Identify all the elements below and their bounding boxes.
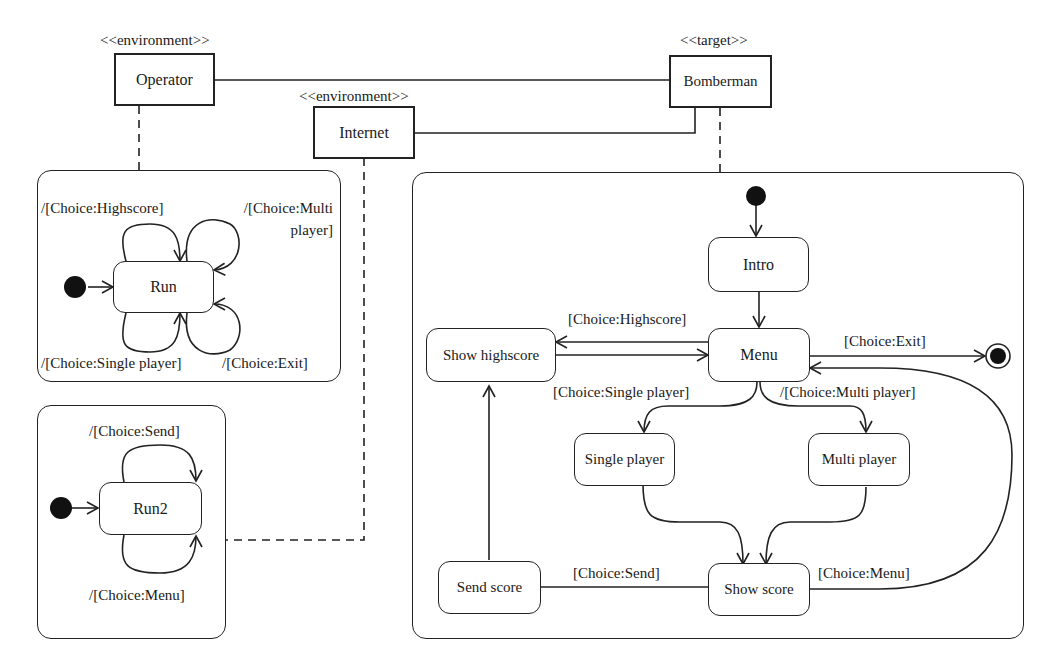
transition-label-menu-bm: [Choice:Menu] [818,565,910,582]
bomberman-label: Bomberman [683,73,757,90]
transition-label-exit-bm: [Choice:Exit] [844,333,926,350]
transition-label-multi-1: /[Choice:Multi [220,200,333,217]
transition-label-send: /[Choice:Send] [89,423,180,440]
state-send-score-label: Send score [457,579,522,596]
operator-stereotype: <<environment>> [100,32,210,49]
state-menu-label: Menu [740,346,777,364]
transition-label-single: /[Choice:Single player] [41,355,181,372]
operator-label: Operator [136,71,193,89]
state-run2[interactable]: Run2 [99,482,202,535]
internet-label: Internet [339,124,389,142]
state-intro-label: Intro [743,256,774,274]
transition-label-exit: /[Choice:Exit] [222,355,308,372]
transition-label-single-bm: [Choice:Single player] [553,384,689,401]
bomberman-component[interactable]: Bomberman [669,55,772,108]
internet-stereotype: <<environment>> [299,88,409,105]
state-send-score[interactable]: Send score [438,561,541,614]
state-run2-label: Run2 [133,500,168,518]
state-show-highscore[interactable]: Show highscore [426,328,556,382]
transition-label-send-bm: [Choice:Send] [573,565,660,582]
operator-component[interactable]: Operator [114,53,215,106]
state-single-player-label: Single player [585,451,665,468]
state-show-score-label: Show score [724,581,794,598]
transition-label-multi-2: player] [220,222,333,239]
bomberman-stereotype: <<target>> [680,32,748,49]
state-show-highscore-label: Show highscore [443,347,539,364]
internet-component[interactable]: Internet [313,106,415,159]
state-menu[interactable]: Menu [708,328,810,382]
transition-label-highscore-bm: [Choice:Highscore] [568,311,686,328]
state-multi-player[interactable]: Multi player [808,433,910,486]
transition-label-highscore: /[Choice:Highscore] [41,200,163,217]
state-run-label: Run [150,278,177,296]
transition-label-multi-bm: /[Choice:Multi player] [780,384,915,401]
state-show-score[interactable]: Show score [708,563,810,616]
transition-label-menu: /[Choice:Menu] [89,587,185,604]
state-multi-player-label: Multi player [822,451,897,468]
state-run[interactable]: Run [113,261,214,313]
state-intro[interactable]: Intro [708,237,809,292]
state-single-player[interactable]: Single player [574,433,675,486]
association-internet-bomberman [415,108,695,133]
